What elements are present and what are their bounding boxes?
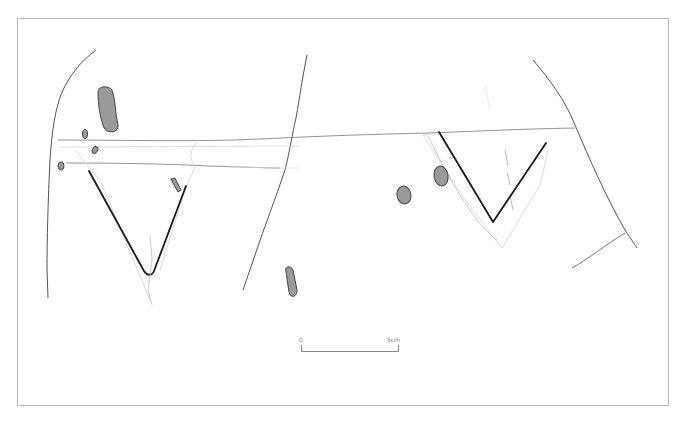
inclusion-oval-2 (432, 165, 449, 187)
inclusion-large (98, 87, 118, 132)
lower-horizontal-faint (230, 167, 300, 168)
right-lower-crack (572, 233, 625, 268)
right-chevron-faint-outline (423, 134, 548, 248)
middle-crack (243, 55, 307, 290)
scale-bar (301, 345, 399, 352)
right-chevron (439, 132, 546, 222)
right-chevron-faint-ridge (428, 136, 497, 240)
inclusion-oval-1 (396, 185, 413, 205)
inclusions (58, 87, 450, 296)
small-crack-left (148, 178, 174, 305)
right-faint-vertical (485, 85, 490, 110)
scale-label-start: 0 (299, 336, 303, 343)
inclusion-elongated (286, 267, 297, 296)
right-edge-crack (533, 60, 637, 248)
upper-horizontal-line (58, 128, 575, 141)
inclusion-small-3 (58, 162, 64, 170)
left-chevron (89, 171, 186, 275)
left-edge-crack (47, 50, 96, 298)
inclusion-small-1 (83, 130, 88, 139)
rock-art-drawing (0, 0, 687, 425)
scale-label-end: 5cm (387, 336, 400, 343)
